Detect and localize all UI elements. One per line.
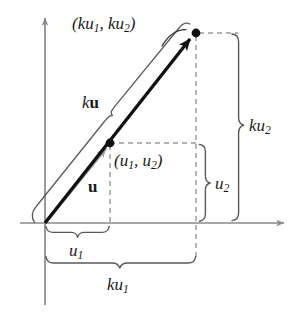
brace-ku2	[232, 34, 244, 221]
point-ku-dot	[192, 29, 201, 38]
point-u-label-u2: u	[142, 151, 151, 170]
dashed-guides-group	[110, 33, 238, 260]
vector-ku-label-u: u	[90, 93, 99, 112]
brace-u2-label-sub: 2	[224, 182, 230, 195]
point-ku-label-u1: u	[85, 14, 94, 33]
brace-along-ku-vector	[32, 23, 190, 222]
point-ku-label-k2: k	[108, 14, 116, 33]
point-ku-label-u2: u	[116, 14, 125, 33]
vector-ku-group	[45, 39, 190, 223]
brace-u2	[200, 145, 211, 222]
brace-ku1-label: ku1	[107, 276, 129, 296]
vector-scalar-multiple-figure: (ku1, ku2) (u1, u2) ku u ku2 u2 ku1 u1	[0, 0, 306, 316]
brace-ku1-label-sub: 1	[123, 283, 129, 296]
brace-ku2-label-k: k	[249, 116, 257, 135]
brace-ku2-label-u: u	[257, 116, 266, 135]
vector-ku-arrow	[45, 39, 190, 223]
brace-ku2-label-sub: 2	[265, 124, 271, 137]
brace-ku2-path	[232, 34, 244, 221]
vector-u-label: u	[88, 178, 97, 195]
point-ku-label-comma: ,	[100, 14, 109, 33]
brace-u2-label: u2	[215, 175, 229, 195]
brace-u1-path	[46, 227, 109, 238]
point-u-dot	[106, 139, 115, 148]
vector-u-label-u: u	[88, 177, 97, 196]
brace-u2-label-u: u	[215, 174, 224, 193]
brace-ku1-label-u: u	[115, 275, 124, 294]
brace-u1-label-sub: 1	[78, 249, 84, 262]
brace-u1-label: u1	[69, 242, 83, 262]
point-u-label-close: )	[157, 151, 163, 170]
brace-ku2-label: ku2	[249, 117, 271, 137]
brace-ku-vector-path	[32, 23, 190, 222]
brace-u1	[46, 227, 109, 238]
point-ku-label-close: )	[130, 14, 136, 33]
point-u-label-u1: u	[120, 151, 129, 170]
vector-ku-label: ku	[82, 94, 99, 111]
vector-ku-label-k: k	[82, 93, 90, 112]
brace-u2-path	[200, 145, 211, 222]
point-ku-label: (ku1, ku2)	[72, 15, 136, 35]
brace-u1-label-u: u	[69, 241, 78, 260]
point-u-label: (u1, u2)	[114, 152, 162, 172]
brace-ku1-label-k: k	[107, 275, 115, 294]
